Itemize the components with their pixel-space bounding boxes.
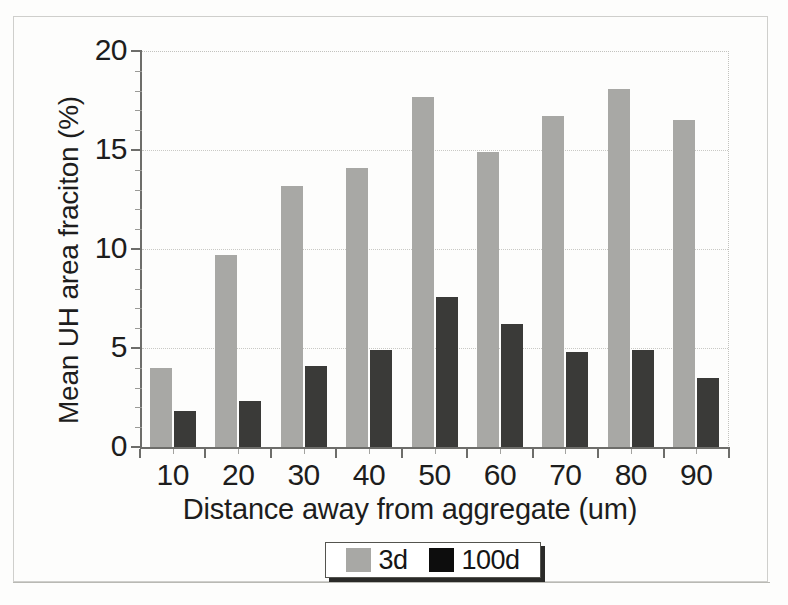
bar-100d xyxy=(566,352,588,447)
x-axis-tick xyxy=(270,449,272,458)
x-axis-title: Distance away from aggregate (um) xyxy=(100,493,720,525)
bar-3d xyxy=(412,97,434,447)
bar-100d xyxy=(370,350,392,447)
x-axis-tick xyxy=(663,449,665,458)
bar-3d xyxy=(215,255,237,447)
x-axis-tick-label: 70 xyxy=(530,458,600,492)
x-axis-tick-label: 20 xyxy=(203,458,273,492)
x-axis-tick-label: 80 xyxy=(596,458,666,492)
x-axis-minor-tick xyxy=(304,449,305,454)
x-axis-tick xyxy=(139,449,141,458)
x-axis-tick xyxy=(335,449,337,458)
legend-entry: 100d xyxy=(429,546,519,574)
x-axis-minor-tick xyxy=(631,449,632,454)
legend-shadow-right xyxy=(541,546,545,582)
y-axis-tick-label: 20 xyxy=(67,35,127,65)
x-axis-tick xyxy=(532,449,534,458)
bar-100d xyxy=(632,350,654,447)
bar-3d xyxy=(281,186,303,447)
bar-100d xyxy=(239,401,261,447)
x-axis-minor-tick xyxy=(369,449,370,454)
x-axis-tick-label: 60 xyxy=(465,458,535,492)
x-axis-tick-label: 40 xyxy=(334,458,404,492)
legend-swatch-3d xyxy=(346,548,371,572)
x-axis-tick xyxy=(204,449,206,458)
x-axis-tick xyxy=(728,449,730,458)
legend-label: 100d xyxy=(461,546,519,574)
x-axis-tick xyxy=(466,449,468,458)
legend-entry: 3d xyxy=(346,546,407,574)
bar-3d xyxy=(346,168,368,447)
x-axis-tick-label: 10 xyxy=(138,458,208,492)
bar-3d xyxy=(477,152,499,447)
bar-3d xyxy=(608,89,630,447)
bar-chart: 05101520 Mean UH area fraciton (%) 10203… xyxy=(0,0,788,605)
x-axis-tick-label: 50 xyxy=(400,458,470,492)
x-axis-tick xyxy=(597,449,599,458)
bar-100d xyxy=(436,297,458,447)
bar-100d xyxy=(501,324,523,447)
x-axis-minor-tick xyxy=(696,449,697,454)
chart-legend: 3d100d xyxy=(325,542,541,578)
x-axis-minor-tick xyxy=(435,449,436,454)
bar-3d xyxy=(673,120,695,447)
bars-layer xyxy=(140,51,729,447)
bar-100d xyxy=(174,411,196,447)
x-axis-tick-label: 30 xyxy=(269,458,339,492)
bar-100d xyxy=(697,378,719,447)
x-axis-minor-tick xyxy=(500,449,501,454)
x-axis-tick-label: 90 xyxy=(661,458,731,492)
x-axis-minor-tick xyxy=(565,449,566,454)
legend-label: 3d xyxy=(378,546,407,574)
bar-3d xyxy=(150,368,172,447)
chart-page: 05101520 Mean UH area fraciton (%) 10203… xyxy=(0,0,788,605)
legend-swatch-100d xyxy=(429,548,454,572)
bar-100d xyxy=(305,366,327,447)
bar-3d xyxy=(542,116,564,447)
legend-shadow-bottom xyxy=(329,578,545,582)
y-axis-title: Mean UH area fraciton (%) xyxy=(54,65,84,455)
x-axis-minor-tick xyxy=(173,449,174,454)
x-axis-minor-tick xyxy=(238,449,239,454)
x-axis-tick xyxy=(401,449,403,458)
